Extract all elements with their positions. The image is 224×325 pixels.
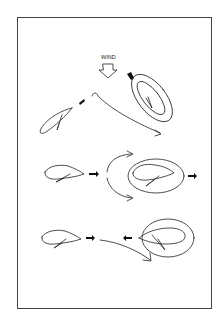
top-motion-arrow-icon [79, 99, 85, 105]
middle-left-wing [45, 165, 84, 182]
diagram-canvas: WIND [0, 0, 224, 325]
middle-exit-arrow-icon [188, 173, 197, 179]
top-flow-arrow [92, 93, 161, 136]
bottom-ring-wing [139, 219, 194, 257]
wind-label: WIND [101, 54, 116, 60]
top-left-wing [40, 108, 72, 133]
bottom-ring-motion-arrow-icon [123, 235, 132, 241]
middle-motion-arrow-icon [89, 171, 99, 177]
bottom-motion-arrow-icon [86, 235, 95, 241]
bottom-flow-arrow [100, 240, 151, 261]
middle-ring-wing [128, 159, 184, 193]
wind-indicator: WIND [99, 54, 117, 78]
wind-arrow-icon [99, 64, 117, 78]
bottom-left-wing [42, 230, 81, 248]
middle-split-flow-arrows [107, 151, 133, 201]
